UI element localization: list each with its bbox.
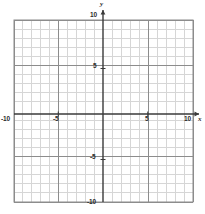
x-axis-label: x (198, 116, 202, 123)
y-tick-label-minus-10: -10 (87, 199, 96, 206)
coordinate-graph: y x 10 5 -5 -10 -10 -5 5 10 (0, 0, 205, 214)
y-tick-label-5: 5 (93, 63, 96, 70)
x-tick-label-minus-5: -5 (53, 116, 58, 123)
y-axis-arrow-icon (101, 10, 106, 15)
y-tick-label-minus-5: -5 (90, 154, 95, 161)
x-tick-label-10: 10 (184, 116, 191, 123)
y-tick-label-10: 10 (90, 12, 97, 19)
coordinate-grid-svg (0, 0, 205, 214)
y-axis-label: y (100, 1, 103, 8)
x-tick-label-minus-10: -10 (1, 116, 10, 123)
x-tick-label-5: 5 (145, 116, 148, 123)
